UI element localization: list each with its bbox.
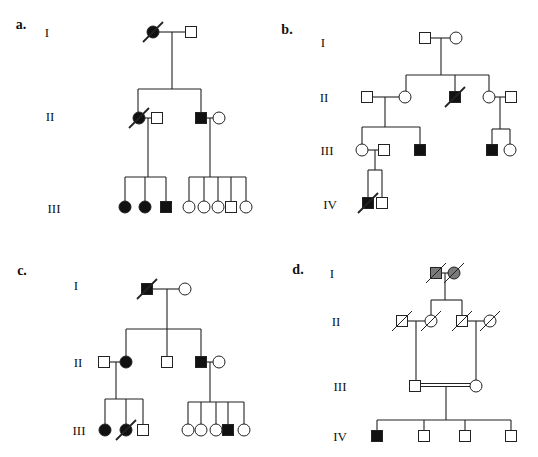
generation-label-b-I: I [321,36,325,49]
male-square-icon [379,145,390,156]
male-square-icon [223,425,234,436]
female-circle-icon [450,32,462,44]
male-square-icon [420,33,431,44]
male-square-icon [506,92,517,103]
female-circle-icon [183,201,195,213]
male-square-icon [99,357,110,368]
female-circle-icon [120,356,132,368]
generation-label-b-IV: IV [323,198,337,211]
generation-label-d-III: III [334,380,347,393]
female-circle-icon [212,201,224,213]
female-circle-icon [470,380,482,392]
panel-label-b: b. [281,23,292,37]
male-square-icon [415,145,426,156]
female-circle-icon [399,91,411,103]
generation-label-c-III: III [73,424,86,437]
male-square-icon [196,357,207,368]
pedigree-panel-a [119,22,252,213]
pedigree-panel-c [99,279,251,440]
generation-label-d-IV: IV [333,430,347,443]
panel-label-c: c. [17,264,27,278]
male-square-icon [372,431,383,442]
male-square-icon [186,27,197,38]
pedigree-panel-b [356,32,517,213]
female-circle-icon [139,201,151,213]
male-square-icon [152,113,163,124]
generation-label-c-I: I [74,279,78,292]
generation-label-c-II: II [74,356,83,369]
female-circle-icon [483,91,495,103]
male-square-icon [377,198,388,209]
generation-label-a-II: II [46,110,55,123]
male-square-icon [196,113,207,124]
generation-label-a-III: III [48,202,61,215]
female-circle-icon [240,201,252,213]
pedigree-canvas [0,0,538,457]
female-circle-icon [356,144,368,156]
male-square-icon [362,92,373,103]
pedigree-figure: a.IIIIIIb.IIIIIIIVc.IIIIIId.IIIIIIIV [0,0,538,457]
panel-label-a: a. [16,18,27,32]
female-circle-icon [504,144,516,156]
female-circle-icon [213,356,225,368]
generation-label-d-II: II [332,315,341,328]
female-circle-icon [119,201,131,213]
female-circle-icon [195,424,207,436]
panel-label-d: d. [292,263,303,277]
generation-label-b-III: III [321,144,334,157]
male-square-icon [138,425,149,436]
relationship-lines [362,38,510,198]
female-circle-icon [182,424,194,436]
male-square-icon [410,381,421,392]
female-circle-icon [179,283,191,295]
pedigree-panel-d [372,263,517,442]
generation-label-b-II: II [320,91,329,104]
male-square-icon [487,145,498,156]
relationship-lines [377,273,511,431]
male-square-icon [419,431,430,442]
female-circle-icon [198,201,210,213]
generation-label-a-I: I [45,26,49,39]
male-square-icon [460,431,471,442]
female-circle-icon [99,424,111,436]
generation-label-d-I: I [330,267,334,280]
male-square-icon [162,357,173,368]
female-circle-icon [213,112,225,124]
female-circle-icon [210,424,222,436]
male-square-icon [506,431,517,442]
male-square-icon [226,202,237,213]
male-square-icon [161,202,172,213]
female-circle-icon [238,424,250,436]
